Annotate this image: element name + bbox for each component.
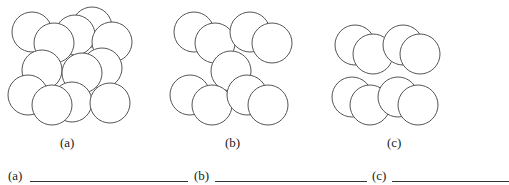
panel-a [8,7,132,125]
atom-circle [32,85,72,125]
packing-diagrams [0,0,509,185]
panel-c [332,25,440,125]
answer-blank-a[interactable] [30,181,188,182]
atom-circle [400,34,440,74]
atom-circle [398,85,438,125]
answer-blank-c[interactable] [392,181,509,182]
atom-circle [248,85,288,125]
answer-blank-b[interactable] [215,181,367,182]
panel-b [170,12,292,125]
atom-circle [90,83,130,123]
answer-label-a: (a) [8,168,22,184]
caption-c: (c) [387,135,401,151]
caption-b: (b) [225,135,240,151]
answer-label-c: (c) [372,168,386,184]
answer-label-b: (b) [194,168,209,184]
atom-circle [252,23,292,63]
caption-a: (a) [60,135,74,151]
atom-circle [192,85,232,125]
